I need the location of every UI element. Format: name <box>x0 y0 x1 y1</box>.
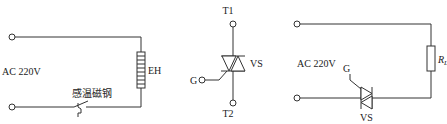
switch-label: 感温磁钢 <box>72 87 112 99</box>
triac-load-circuit: RL AC 220V G VS <box>294 21 447 123</box>
gate-label: G <box>190 75 197 86</box>
circuit-diagrams: EH AC 220V 感温磁钢 T1 G VS T <box>0 0 447 124</box>
gate-terminal <box>199 77 205 83</box>
t2-terminal <box>230 100 236 106</box>
load-resistor-icon <box>427 46 435 71</box>
terminal-top-left <box>294 21 300 27</box>
supply-label: AC 220V <box>2 66 41 77</box>
supply-label: AC 220V <box>297 58 336 69</box>
load-label: RL <box>437 54 447 67</box>
terminal-bottom-left <box>9 104 15 110</box>
terminal-top-left <box>9 34 15 40</box>
triac-icon <box>350 74 372 109</box>
thermal-switch-icon <box>74 101 88 117</box>
heater-element-icon <box>137 52 145 88</box>
device-label: VS <box>250 58 263 69</box>
device-label: VS <box>360 112 373 123</box>
triac-symbol: T1 G VS T2 <box>190 5 263 119</box>
heater-label: EH <box>148 65 161 76</box>
gate-label: G <box>343 63 350 74</box>
t2-label: T2 <box>222 108 233 119</box>
terminal-bottom-left <box>294 95 300 101</box>
t1-terminal <box>230 21 236 27</box>
t1-label: T1 <box>222 5 233 16</box>
triac-icon <box>219 56 245 80</box>
heater-circuit: EH AC 220V 感温磁钢 <box>2 34 161 117</box>
